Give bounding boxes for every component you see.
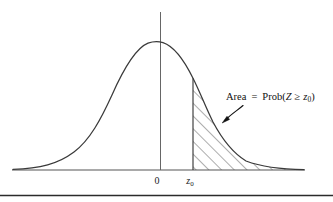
annotation-close: ) bbox=[311, 91, 315, 103]
annotation-prefix: Area bbox=[226, 91, 247, 102]
annotation-arrow bbox=[222, 106, 243, 124]
annotation-text: Area=Prob(Z≥z0) bbox=[226, 91, 315, 104]
tail-hatch-fill bbox=[190, 74, 310, 174]
figure-canvas: Area=Prob(Z≥z0) 0 z0 bbox=[0, 0, 333, 202]
x-tick-label-z0: z0 bbox=[185, 175, 194, 188]
x-tick-z0-sub: 0 bbox=[190, 180, 194, 188]
x-tick-label-zero: 0 bbox=[155, 175, 160, 186]
annotation-variable: Z bbox=[286, 91, 292, 102]
annotation-func: Prob( bbox=[262, 91, 286, 103]
annotation-equals: = bbox=[251, 91, 257, 102]
shaded-tail-region bbox=[190, 74, 310, 174]
normal-curve-path bbox=[13, 42, 304, 170]
normal-curve-figure: Area=Prob(Z≥z0) 0 z0 bbox=[0, 0, 333, 202]
annotation-relation: ≥ bbox=[295, 91, 301, 102]
